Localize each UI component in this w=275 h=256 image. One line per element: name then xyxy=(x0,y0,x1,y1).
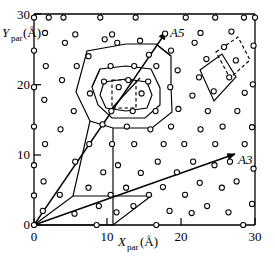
data-point xyxy=(42,30,47,35)
data-point xyxy=(154,63,159,68)
data-point xyxy=(205,203,210,208)
data-point xyxy=(249,125,254,130)
data-point xyxy=(148,127,153,132)
data-point xyxy=(227,75,232,80)
data-point xyxy=(212,163,217,168)
data-point xyxy=(233,58,238,63)
x-ticklabel-10: 10 xyxy=(101,229,114,244)
data-point xyxy=(221,44,226,49)
data-point xyxy=(146,52,151,57)
data-point xyxy=(251,166,256,171)
data-point xyxy=(86,185,91,190)
data-point xyxy=(123,185,128,190)
data-point xyxy=(168,48,173,53)
data-point xyxy=(31,163,36,168)
x-axis-title-main: X xyxy=(117,234,127,249)
spoke-mid-left xyxy=(92,69,100,87)
data-point xyxy=(74,63,79,68)
data-point xyxy=(167,208,172,213)
data-point xyxy=(211,89,216,94)
data-point xyxy=(87,91,92,96)
data-point xyxy=(168,85,173,90)
data-point xyxy=(61,15,66,20)
data-point xyxy=(229,29,234,34)
data-point xyxy=(73,159,78,164)
data-point xyxy=(205,108,210,113)
middle-octagon xyxy=(92,66,160,118)
y-axis-title-unit: (Å) xyxy=(23,25,41,40)
data-point xyxy=(146,79,151,84)
data-point xyxy=(114,210,119,215)
data-point xyxy=(251,43,256,48)
data-point xyxy=(31,193,36,198)
data-point xyxy=(31,48,36,53)
data-point xyxy=(241,222,246,227)
data-point xyxy=(138,170,143,175)
data-point xyxy=(234,179,239,184)
data-point xyxy=(109,32,114,37)
data-point xyxy=(174,170,179,175)
data-point xyxy=(94,222,99,227)
data-point xyxy=(40,208,45,213)
data-point xyxy=(130,108,135,113)
data-point xyxy=(197,180,202,185)
data-point xyxy=(226,210,231,215)
data-point xyxy=(98,15,103,20)
y-ticklabel-30: 30 xyxy=(17,7,30,22)
data-point xyxy=(250,82,255,87)
spoke-lower-left xyxy=(73,121,90,196)
data-point xyxy=(100,122,105,127)
data-point xyxy=(62,40,67,45)
data-point xyxy=(242,90,247,95)
data-point xyxy=(190,93,195,98)
data-point xyxy=(46,15,51,20)
data-point xyxy=(220,124,225,129)
data-point xyxy=(57,192,62,197)
data-point xyxy=(31,222,36,227)
data-point xyxy=(43,63,48,68)
y-axis-title: Y par (Å) xyxy=(2,25,41,43)
data-point xyxy=(115,163,120,168)
vector-a3 xyxy=(34,154,235,225)
data-point xyxy=(213,15,218,20)
data-point xyxy=(87,142,92,147)
data-point xyxy=(163,31,168,36)
data-point xyxy=(161,142,166,147)
data-point xyxy=(31,124,36,129)
data-point xyxy=(42,97,47,102)
data-point xyxy=(219,185,224,190)
data-point xyxy=(116,85,121,90)
data-point xyxy=(132,63,137,68)
data-point xyxy=(154,222,159,227)
x-ticklabel-0: 0 xyxy=(31,229,38,244)
y-ticklabel-20: 20 xyxy=(17,77,30,92)
data-point xyxy=(71,108,76,113)
data-point xyxy=(196,75,201,80)
y-ticklabel-0: 0 xyxy=(24,217,31,232)
figure-container: 30 20 10 0 0 10 20 30 X par (Å) Y par (Å… xyxy=(0,0,275,256)
data-point xyxy=(153,108,158,113)
data-point xyxy=(102,37,107,42)
data-point xyxy=(249,201,254,206)
data-point xyxy=(42,142,47,147)
data-point xyxy=(73,32,78,37)
data-point xyxy=(96,203,101,208)
data-point xyxy=(213,142,218,147)
data-point xyxy=(227,159,232,164)
data-point xyxy=(192,40,197,45)
data-point xyxy=(58,127,63,132)
data-point xyxy=(101,170,106,175)
vector-a3-label: A3 xyxy=(237,152,253,167)
data-point xyxy=(155,159,160,164)
data-point xyxy=(176,106,181,111)
data-point xyxy=(115,40,120,45)
data-point xyxy=(241,15,246,20)
x-axis-title: X par (Å) xyxy=(117,234,158,252)
data-point xyxy=(31,15,36,20)
data-point xyxy=(109,108,114,113)
quasicrystal-scatter-plot: 30 20 10 0 0 10 20 30 X par (Å) Y par (Å… xyxy=(0,0,275,256)
data-point xyxy=(72,211,77,216)
x-axis-title-unit: (Å) xyxy=(140,234,158,249)
data-point xyxy=(198,30,203,35)
data-point xyxy=(198,127,203,132)
